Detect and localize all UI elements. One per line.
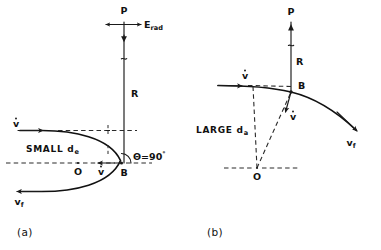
panel-a-caption: (a)	[17, 226, 33, 238]
panel-b-label-vdot-main: v	[290, 111, 297, 122]
panel-b-radius-break	[288, 45, 293, 46]
panel-a-v-initial-dot	[15, 118, 17, 120]
panel-a-label-Erad-sub: rad	[151, 24, 164, 32]
panel-b-label-vf-sub: f	[353, 142, 356, 150]
panel-a-impact-label: SMALL de	[26, 144, 80, 156]
panel-a-point-O	[77, 162, 79, 164]
panel-a-label-v-initial-main: v	[13, 118, 20, 129]
panel-a-label-vf-sub: f	[21, 201, 24, 209]
panel-b-point-O	[256, 167, 258, 169]
panel-b-v-initial-dot	[244, 70, 246, 72]
figure-canvas: P Erad R v SMALL	[0, 0, 381, 250]
scattering-figure: P Erad R v SMALL	[0, 0, 381, 250]
panel-b-impact-label: LARGE da	[196, 125, 249, 137]
panel-b-radius-dashed	[257, 92, 291, 168]
panel-a-label-R: R	[131, 88, 139, 99]
panel-a-label-P: P	[121, 5, 128, 16]
panel-a-label-vdot: v	[98, 166, 105, 177]
panel-a-label-vf: vf	[14, 196, 23, 209]
panel-a-angle-label: Θ=90°	[133, 150, 166, 162]
panel-b-radius-arrowhead	[288, 24, 294, 31]
panel-b-label-v-initial: v	[242, 70, 249, 81]
panel-b: P R v B v	[196, 6, 357, 238]
panel-a-angle-degree: °	[162, 150, 165, 158]
panel-a-label-B: B	[120, 167, 127, 178]
panel-b-label-B: B	[298, 80, 305, 91]
panel-a-impact-marker	[106, 130, 110, 131]
panel-b-label-vdot: v	[290, 111, 297, 122]
panel-a-radius-break	[121, 58, 126, 59]
panel-a-vdot-dot	[100, 166, 102, 168]
panel-a-angle-equals: =	[141, 151, 149, 162]
panel-b-velocity-initial-arrow	[218, 86, 242, 87]
panel-b-vdot-dot	[292, 111, 294, 113]
panel-a-angle-value: 90	[149, 151, 163, 162]
panel-b-label-R: R	[296, 56, 304, 67]
panel-b-impact-symbol: d	[237, 125, 244, 135]
panel-b-caption: (b)	[207, 226, 223, 238]
panel-b-impact-vertical-dashed	[253, 87, 257, 169]
panel-a-angle-symbol: Θ	[133, 151, 141, 162]
panel-b-velocity-final-arrow	[337, 112, 357, 131]
panel-a-impact-condition: SMALL	[26, 144, 63, 154]
panel-a-label-O: O	[74, 166, 82, 177]
panel-a-label-v-initial: v	[13, 118, 20, 129]
panel-b-label-vf: vf	[346, 137, 355, 150]
panel-a-impact-symbol: d	[67, 144, 74, 154]
panel-a-angle-arc	[122, 154, 132, 164]
panel-a-label-Erad: Erad	[144, 19, 163, 32]
panel-a: P Erad R v SMALL	[6, 5, 166, 238]
panel-b-label-v-initial-main: v	[242, 70, 249, 81]
panel-a-trajectory	[20, 131, 121, 192]
panel-b-label-O: O	[253, 171, 261, 182]
panel-a-point-B	[120, 161, 123, 164]
panel-a-radius-arrowhead	[121, 36, 127, 42]
panel-b-impact-condition: LARGE	[196, 125, 233, 135]
panel-a-impact-subscript: e	[74, 148, 79, 156]
panel-b-label-P: P	[288, 6, 295, 17]
panel-b-impact-subscript: a	[244, 129, 249, 137]
panel-a-label-vdot-main: v	[98, 166, 105, 177]
